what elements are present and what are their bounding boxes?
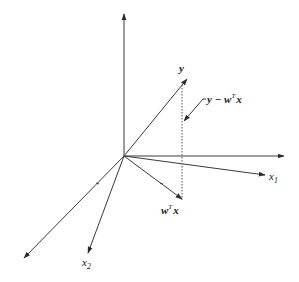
projection-label-tail: x — [172, 204, 179, 216]
x1-label-sub: 1 — [274, 176, 278, 185]
projection-label: wTx — [161, 203, 179, 216]
residual-label-tail: x — [235, 93, 242, 105]
residual-pointer-arrow — [184, 99, 203, 121]
y-label: y — [177, 62, 184, 74]
projection-tick — [160, 183, 163, 184]
lower-left-axis — [24, 156, 124, 258]
projection-diagram: y y − wTx wTx x1 x2 — [0, 0, 299, 282]
x1-label: x1 — [268, 170, 278, 185]
y-vector — [124, 79, 187, 156]
x2-label-sub: 2 — [87, 262, 91, 271]
x2-axis — [88, 156, 124, 253]
residual-label: y − wTx — [205, 92, 242, 105]
x2-label: x2 — [81, 256, 91, 271]
residual-label-main: y − w — [205, 93, 232, 105]
